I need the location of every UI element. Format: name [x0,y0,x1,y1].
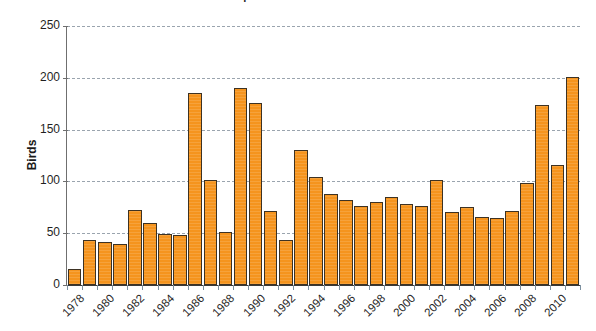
bar [204,180,218,285]
chart-title: Graph of annual bird counts [0,0,596,2]
bar [339,200,353,285]
x-tick-mark [339,285,340,290]
y-tick-mark [63,130,68,131]
bar [279,240,293,285]
x-tick-mark [203,285,204,290]
x-tick-mark [489,285,490,290]
bar-chart: Graph of annual bird counts Birds 197819… [0,0,596,331]
bar [430,180,444,285]
x-tick-mark [474,285,475,290]
gridline [67,78,580,79]
x-tick-mark [444,285,445,290]
bar [535,105,549,285]
x-tick-mark [188,285,189,290]
gridline [67,181,580,182]
bar [566,77,580,285]
bar [490,218,504,285]
bar [113,244,127,285]
x-tick-mark [158,285,159,290]
bar [445,212,459,285]
x-tick-mark [142,285,143,290]
bar [324,194,338,285]
y-tick-label: 100 [20,174,60,186]
y-tick-mark [63,26,68,27]
bar [264,211,278,285]
x-tick-mark [173,285,174,290]
x-tick-mark [429,285,430,290]
y-tick-mark [63,233,68,234]
bar [354,206,368,285]
x-tick-mark [580,285,581,290]
bar [475,217,489,285]
x-tick-mark [324,285,325,290]
bar [309,177,323,285]
x-tick-mark [97,285,98,290]
y-tick-mark [63,78,68,79]
x-tick-mark [414,285,415,290]
bar [415,206,429,285]
y-tick-label: 150 [20,123,60,135]
x-tick-mark [384,285,385,290]
plot-area [66,26,580,286]
bar [294,150,308,285]
bar [219,232,233,285]
bar [128,210,142,285]
x-tick-mark [535,285,536,290]
bar [188,93,202,285]
x-tick-mark [82,285,83,290]
bar [520,183,534,285]
x-tick-mark [278,285,279,290]
y-tick-label: 250 [20,19,60,31]
bar [249,103,263,285]
bar [400,204,414,285]
bar [505,211,519,285]
x-tick-mark [505,285,506,290]
bar [234,88,248,285]
x-tick-mark [399,285,400,290]
bar [385,197,399,285]
x-tick-mark [263,285,264,290]
x-tick-mark [354,285,355,290]
x-tick-mark [565,285,566,290]
bar [173,235,187,285]
bar [460,207,474,285]
x-tick-mark [550,285,551,290]
y-tick-mark [63,181,68,182]
bar [68,269,82,285]
x-tick-mark [127,285,128,290]
y-tick-label: 200 [20,71,60,83]
gridline [67,130,580,131]
bar [98,242,112,286]
x-tick-mark [308,285,309,290]
y-tick-label: 50 [20,226,60,238]
x-tick-mark [233,285,234,290]
bar [370,202,384,285]
x-tick-mark [293,285,294,290]
gridline [67,26,580,27]
bar [551,165,565,285]
x-tick-mark [369,285,370,290]
x-tick-mark [112,285,113,290]
x-tick-mark [520,285,521,290]
x-tick-mark [67,285,68,290]
bar [83,240,97,285]
x-tick-mark [459,285,460,290]
x-tick-mark [248,285,249,290]
bar [143,223,157,285]
x-tick-mark [218,285,219,290]
bar [158,234,172,285]
y-tick-label: 0 [20,278,60,290]
